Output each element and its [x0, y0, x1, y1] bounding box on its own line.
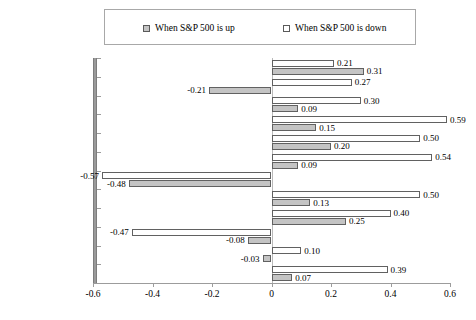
- x-tick-mark: [450, 283, 451, 287]
- chart-figure: When S&P 500 is up When S&P 500 is down …: [0, 0, 476, 320]
- x-tick-mark: [212, 283, 213, 287]
- bar-value-label: 0.59: [450, 115, 466, 125]
- bar-value-label: 0.30: [364, 96, 380, 106]
- bar-value-label: 0.09: [301, 160, 317, 170]
- x-tick-label: -0.2: [204, 289, 219, 299]
- plot-area: -0.6-0.4-0.200.20.40.6 Equity mkt. neutr…: [93, 58, 450, 283]
- y-tick-mark: [97, 189, 101, 190]
- bar-value-label: 0.50: [423, 133, 439, 143]
- legend-label-up: When S&P 500 is up: [155, 23, 235, 33]
- legend-entry-down: When S&P 500 is down: [283, 23, 386, 33]
- x-tick-label: -0.4: [145, 289, 160, 299]
- bar-down: [272, 266, 388, 273]
- y-tick-mark: [97, 246, 101, 247]
- chart-legend: When S&P 500 is up When S&P 500 is down: [104, 9, 416, 45]
- y-tick-mark: [97, 208, 101, 209]
- bar-value-label: 0.31: [367, 66, 383, 76]
- bar-value-label: -0.08: [226, 235, 245, 245]
- y-tick-mark: [97, 133, 101, 134]
- x-tick-mark: [93, 283, 94, 287]
- bar-down: [272, 116, 448, 123]
- y-tick-mark: [97, 58, 101, 59]
- x-tick-label: 0.2: [325, 289, 337, 299]
- y-tick-mark: [97, 77, 101, 78]
- y-tick-mark: [97, 152, 101, 153]
- bar-up: [272, 218, 346, 225]
- bar-up: [209, 87, 271, 94]
- x-tick-label: 0.4: [385, 289, 397, 299]
- bar-value-label: 0.40: [394, 208, 410, 218]
- bar-down: [102, 172, 272, 179]
- legend-entry-up: When S&P 500 is up: [143, 23, 235, 33]
- bar-value-label: 0.50: [423, 190, 439, 200]
- x-tick-label: 0: [269, 289, 274, 299]
- bar-up: [129, 180, 272, 187]
- bar-up: [272, 143, 332, 150]
- bar-value-label: 0.27: [355, 77, 371, 87]
- bar-value-label: 0.21: [337, 58, 353, 68]
- bar-up: [272, 274, 293, 281]
- bar-value-label: 0.15: [319, 123, 335, 133]
- bar-down: [272, 60, 334, 67]
- bar-value-label: -0.21: [187, 85, 206, 95]
- bar-down: [272, 247, 302, 254]
- bar-down: [272, 210, 391, 217]
- bar-down: [272, 154, 433, 161]
- bar-value-label: 0.25: [349, 216, 365, 226]
- legend-swatch-filled-square-icon: [143, 25, 150, 32]
- bar-value-label: 0.54: [435, 152, 451, 162]
- bar-up: [272, 105, 299, 112]
- bar-value-label: 0.13: [313, 198, 329, 208]
- bar-up: [272, 199, 311, 206]
- x-tick-mark: [391, 283, 392, 287]
- bar-value-label: -0.03: [241, 254, 260, 264]
- x-tick-label: 0.6: [444, 289, 456, 299]
- bar-value-label: -0.57: [80, 171, 99, 181]
- y-tick-mark: [97, 114, 101, 115]
- bar-down: [132, 229, 272, 236]
- bar-up: [263, 255, 272, 262]
- bar-value-label: 0.39: [391, 265, 407, 275]
- x-tick-mark: [331, 283, 332, 287]
- y-tick-mark: [97, 96, 101, 97]
- x-tick-mark: [272, 283, 273, 287]
- bar-value-label: 0.20: [334, 141, 350, 151]
- bar-up: [272, 68, 364, 75]
- bar-value-label: 0.09: [301, 104, 317, 114]
- y-tick-mark: [97, 227, 101, 228]
- bar-down: [272, 79, 352, 86]
- legend-swatch-empty-square-icon: [283, 25, 290, 32]
- bar-up: [272, 162, 299, 169]
- bar-value-label: -0.47: [110, 227, 129, 237]
- bar-up: [248, 237, 272, 244]
- bar-value-label: 0.07: [295, 273, 311, 283]
- x-tick-label: -0.6: [85, 289, 100, 299]
- bar-value-label: -0.48: [107, 179, 126, 189]
- bar-down: [272, 191, 421, 198]
- y-tick-mark: [97, 264, 101, 265]
- x-tick-mark: [153, 283, 154, 287]
- bar-up: [272, 124, 317, 131]
- bar-value-label: 0.10: [304, 246, 320, 256]
- legend-label-down: When S&P 500 is down: [295, 23, 386, 33]
